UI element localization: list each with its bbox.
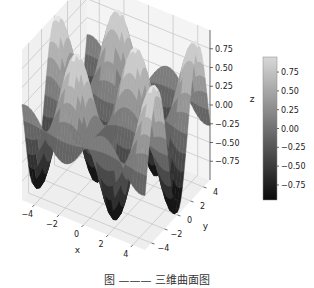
y-tick-label: −2	[171, 230, 183, 239]
z-tick-label: −0.75	[215, 157, 240, 166]
colorbar-tick-label: 0.75	[281, 68, 299, 77]
colorbar-tick-label: 0.25	[281, 106, 299, 115]
y-tick-label: 2	[200, 202, 205, 211]
colorbar: 0.750.500.250.00−0.25−0.50−0.75	[263, 57, 306, 200]
colorbar-tick-label: −0.50	[281, 162, 306, 171]
colorbar-tick-label: −0.25	[281, 143, 306, 152]
x-tick-label: 0	[74, 230, 79, 239]
figure-caption: 图 ——— 三维曲面图	[0, 274, 314, 288]
colorbar-gradient	[263, 57, 277, 200]
x-tick-label: −4	[21, 210, 33, 219]
y-tick-label: 4	[213, 188, 218, 197]
y-tick-label: 0	[187, 216, 192, 225]
z-axis-label: z	[250, 94, 255, 104]
y-axis-label: y	[203, 221, 209, 231]
x-tick-label: 2	[99, 240, 104, 249]
colorbar-tick-label: −0.75	[281, 181, 306, 190]
x-axis-label: x	[75, 245, 81, 255]
colorbar-tick-label: 0.00	[281, 125, 299, 134]
y-tick-label: −4	[158, 244, 170, 253]
z-tick-label: 0.75	[215, 45, 233, 54]
z-tick-label: 0.25	[215, 82, 233, 91]
z-tick-label: −0.25	[215, 120, 240, 129]
x-tick-label: −2	[46, 220, 58, 229]
colorbar-tick-label: 0.50	[281, 87, 299, 96]
x-tick-label: 4	[123, 250, 128, 259]
z-tick-label: 0.00	[215, 101, 233, 110]
z-tick-label: 0.50	[215, 64, 233, 73]
z-tick-label: −0.50	[215, 139, 240, 148]
